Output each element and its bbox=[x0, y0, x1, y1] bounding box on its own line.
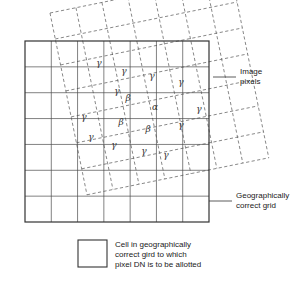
area-weight-label: α bbox=[152, 102, 158, 112]
image-pixel-grid bbox=[50, 0, 269, 195]
area-weight-label: γ bbox=[114, 86, 120, 96]
pixel-grid-line-h bbox=[50, 0, 232, 13]
pixel-grid-line-h bbox=[55, 2, 237, 39]
area-weight-label: γ bbox=[163, 150, 169, 160]
area-weight-label: γ bbox=[141, 146, 147, 156]
legend: Cell in geographically correct gird to w… bbox=[78, 240, 201, 269]
area-weight-label: β bbox=[144, 124, 150, 134]
pixel-grid-line-v bbox=[180, 0, 217, 168]
area-weight-label: γ bbox=[178, 120, 184, 130]
correct-grid-label-line1: Geographically bbox=[236, 191, 289, 200]
geographically-correct-grid bbox=[25, 41, 209, 222]
area-weight-label: γ bbox=[96, 58, 102, 68]
pixel-grid-line-h bbox=[61, 28, 243, 65]
area-weight-label: γ bbox=[81, 112, 87, 122]
area-weight-label: β bbox=[124, 93, 130, 103]
diagram-canvas: γγγγγβαγγββγγγγγ Image pixels Geographic… bbox=[0, 0, 293, 282]
area-weight-label: γ bbox=[178, 77, 184, 87]
image-pixels-label-line1: Image bbox=[240, 67, 263, 76]
image-pixels-label-line2: pixels bbox=[240, 77, 260, 86]
correct-grid-label-line2: correct grid bbox=[236, 201, 276, 210]
correct-grid-callout: Geographically correct grid bbox=[209, 191, 289, 210]
area-weight-label: γ bbox=[121, 66, 127, 76]
pixel-grid-line-h bbox=[71, 80, 253, 117]
pixel-grid-line-v bbox=[50, 13, 87, 195]
grid-cell-swatch bbox=[78, 240, 107, 267]
legend-line2: correct gird to which bbox=[115, 250, 187, 259]
legend-line1: Cell in geographically bbox=[115, 240, 191, 249]
area-weight-label: γ bbox=[196, 104, 202, 114]
pixel-grid-line-v bbox=[206, 0, 243, 163]
area-weight-label: β bbox=[117, 117, 123, 127]
area-weight-label: γ bbox=[149, 71, 155, 81]
pixel-grid-line-v bbox=[154, 0, 191, 174]
pixel-grid-line-v bbox=[102, 2, 139, 184]
legend-line3: pixel DN is to be allotted bbox=[115, 260, 201, 269]
pixel-grid-line-h bbox=[87, 158, 269, 195]
pixel-grid-line-h bbox=[82, 132, 264, 169]
geographically-correct-grid-outline bbox=[25, 41, 209, 222]
pixel-grid-line-v bbox=[76, 8, 113, 190]
resampling-diagram: γγγγγβαγγββγγγγγ Image pixels Geographic… bbox=[0, 0, 293, 282]
area-weight-label: γ bbox=[111, 140, 117, 150]
area-weight-label: γ bbox=[88, 132, 94, 142]
